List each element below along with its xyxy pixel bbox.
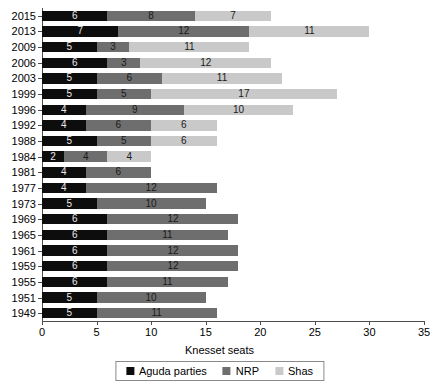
y-axis-tick-label: 1981 xyxy=(12,167,36,178)
bar-segment-nrp: 5 xyxy=(97,136,152,146)
chart-row: 1961612 xyxy=(42,243,424,259)
bar-segment-shas: 10 xyxy=(184,105,293,115)
bar-value-label: 5 xyxy=(121,89,127,99)
bar-segment-shas: 11 xyxy=(129,42,249,52)
stacked-bar: 611 xyxy=(42,230,228,240)
bar-segment-aguda-parties: 2 xyxy=(42,151,64,161)
bar-value-label: 6 xyxy=(72,58,78,68)
bar-value-label: 17 xyxy=(238,89,249,99)
bar-segment-nrp: 8 xyxy=(107,11,194,21)
bar-value-label: 2 xyxy=(50,152,56,162)
bar-segment-shas: 11 xyxy=(249,26,369,36)
bar-segment-aguda-parties: 4 xyxy=(42,183,86,193)
bar-value-label: 12 xyxy=(167,261,178,271)
chart-row: 201371211 xyxy=(42,24,424,40)
y-axis-tick-label: 1951 xyxy=(12,292,36,303)
bar-value-label: 5 xyxy=(67,308,73,318)
stacked-bar: 46 xyxy=(42,167,151,177)
stacked-bar: 612 xyxy=(42,245,238,255)
x-axis-tick-label: 15 xyxy=(200,326,212,339)
y-axis-tick-label: 1996 xyxy=(12,104,36,115)
bar-segment-nrp: 11 xyxy=(97,308,217,318)
stacked-bar: 71211 xyxy=(42,26,369,36)
x-axis-tick-label: 10 xyxy=(145,326,157,339)
bar-value-label: 6 xyxy=(116,167,122,177)
bar-value-label: 6 xyxy=(72,246,78,256)
y-axis-tick-label: 1959 xyxy=(12,261,36,272)
bar-segment-aguda-parties: 5 xyxy=(42,198,97,208)
stacked-bar: 556 xyxy=(42,136,217,146)
x-axis-line xyxy=(42,321,425,322)
stacked-bar: 612 xyxy=(42,261,238,271)
x-axis-tick xyxy=(260,321,261,325)
stacked-bar: 5517 xyxy=(42,89,337,99)
bar-value-label: 4 xyxy=(61,167,67,177)
y-axis-tick-label: 1965 xyxy=(12,229,36,240)
bar-value-label: 12 xyxy=(200,58,211,68)
chart-row: 1984244 xyxy=(42,149,424,165)
bar-segment-nrp: 12 xyxy=(86,183,217,193)
legend-swatch-icon xyxy=(126,367,134,375)
bar-value-label: 11 xyxy=(184,42,194,52)
bar-value-label: 6 xyxy=(181,120,187,130)
legend-item: NRP xyxy=(223,365,259,377)
x-axis-tick xyxy=(369,321,370,325)
x-axis-tick xyxy=(42,321,43,325)
x-axis-tick-label: 30 xyxy=(363,326,375,339)
chart-row: 1951510 xyxy=(42,290,424,306)
bar-segment-nrp: 12 xyxy=(107,214,238,224)
stacked-bar: 244 xyxy=(42,151,151,161)
chart-row: 1965611 xyxy=(42,227,424,243)
stacked-bar: 4910 xyxy=(42,105,293,115)
bar-value-label: 10 xyxy=(233,105,244,115)
bar-segment-nrp: 12 xyxy=(107,261,238,271)
bar-value-label: 3 xyxy=(121,58,127,68)
bar-segment-nrp: 12 xyxy=(118,26,249,36)
bar-segment-nrp: 3 xyxy=(97,42,130,52)
y-axis-tick-label: 2009 xyxy=(12,42,36,53)
bar-value-label: 8 xyxy=(148,11,154,21)
bar-segment-nrp: 6 xyxy=(86,167,151,177)
stacked-bar: 510 xyxy=(42,198,206,208)
bar-value-label: 6 xyxy=(127,73,133,83)
bar-segment-shas: 6 xyxy=(151,120,216,130)
plot-area: 2015687201371211200953112006631220035611… xyxy=(42,8,424,321)
bar-segment-nrp: 9 xyxy=(86,105,184,115)
y-axis-tick-label: 1955 xyxy=(12,276,36,287)
bar-segment-shas: 4 xyxy=(107,151,151,161)
bar-value-label: 12 xyxy=(178,26,189,36)
bar-segment-aguda-parties: 5 xyxy=(42,308,97,318)
chart-row: 1977412 xyxy=(42,180,424,196)
chart-legend: Aguda partiesNRPShas xyxy=(115,361,324,381)
y-axis-tick-label: 1984 xyxy=(12,151,36,162)
bar-value-label: 12 xyxy=(167,214,178,224)
stacked-bar: 5311 xyxy=(42,42,249,52)
legend-label: Shas xyxy=(288,365,313,377)
bar-segment-nrp: 6 xyxy=(86,120,151,130)
bar-value-label: 7 xyxy=(230,11,236,21)
chart-row: 20066312 xyxy=(42,55,424,71)
bar-segment-aguda-parties: 6 xyxy=(42,277,107,287)
chart-row: 1959612 xyxy=(42,258,424,274)
legend-label: Aguda parties xyxy=(139,365,207,377)
bar-segment-shas: 12 xyxy=(140,58,271,68)
bar-segment-aguda-parties: 4 xyxy=(42,105,86,115)
bar-segment-shas: 17 xyxy=(151,89,337,99)
bar-value-label: 11 xyxy=(151,308,161,318)
x-axis-tick xyxy=(424,321,425,325)
chart-row: 1955611 xyxy=(42,274,424,290)
bar-segment-aguda-parties: 7 xyxy=(42,26,118,36)
bar-value-label: 4 xyxy=(61,183,67,193)
bar-value-label: 5 xyxy=(67,199,73,209)
bar-value-label: 11 xyxy=(162,230,172,240)
bar-segment-aguda-parties: 5 xyxy=(42,42,97,52)
x-axis-tick-label: 25 xyxy=(309,326,321,339)
y-axis-tick-label: 1969 xyxy=(12,214,36,225)
bar-value-label: 6 xyxy=(72,261,78,271)
bar-value-label: 12 xyxy=(146,183,157,193)
x-axis-title: Knesset seats xyxy=(0,344,439,357)
y-axis-tick-label: 1999 xyxy=(12,89,36,100)
stacked-bar: 6312 xyxy=(42,58,271,68)
chart-row: 198146 xyxy=(42,165,424,181)
bar-value-label: 5 xyxy=(67,73,73,83)
